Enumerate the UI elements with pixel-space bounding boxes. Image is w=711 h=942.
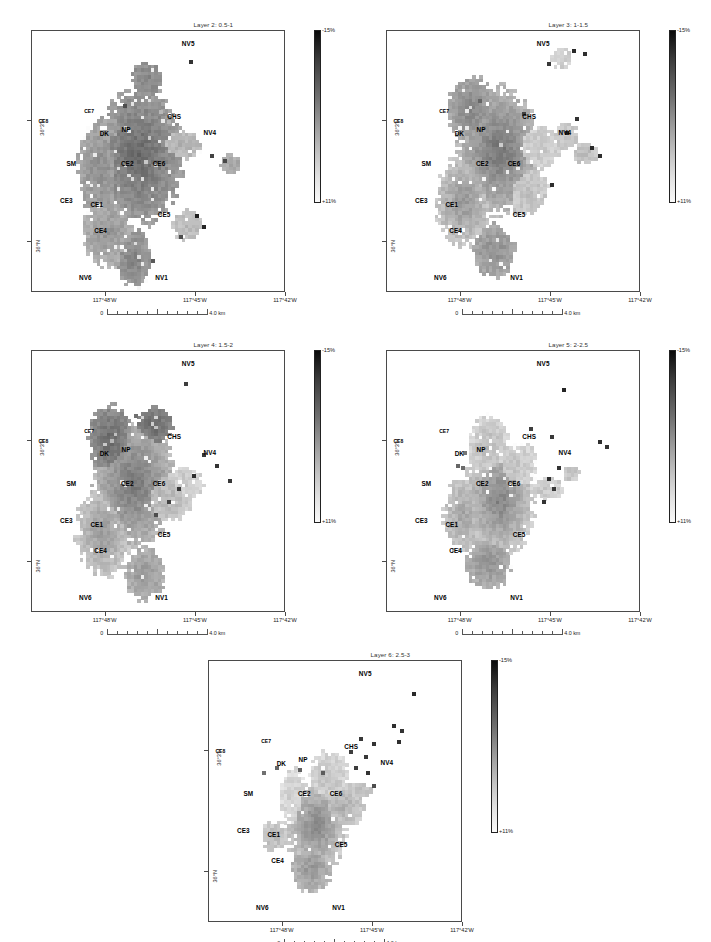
scale-bar-tick xyxy=(127,631,128,635)
panel-title: Layer 3: 1-1.5 xyxy=(549,21,589,28)
y-axis-tick-label: 36°N xyxy=(212,870,218,883)
site-label-nv4: NV4 xyxy=(558,128,571,135)
y-tickmark xyxy=(204,750,208,751)
site-label-ce3: CE3 xyxy=(60,516,73,523)
y-axis-tick-label: 36°3'N xyxy=(39,119,45,136)
site-label-nv6: NV6 xyxy=(79,274,92,281)
y-tickmark xyxy=(382,561,386,562)
scale-bar-tick xyxy=(542,311,543,315)
scale-bar-tick xyxy=(492,631,493,635)
site-label-nv5: NV5 xyxy=(537,39,550,46)
site-label-nv6: NV6 xyxy=(79,594,92,601)
scale-bar-tick xyxy=(532,631,533,635)
site-label-ce7: CE7 xyxy=(439,108,449,114)
site-label-ce5: CE5 xyxy=(513,211,526,218)
map-panel-layer5: Layer 5: 2-2.5NV5CHSCE7CE8DKNPNV4SMCE2CE… xyxy=(359,334,709,644)
site-label-ce2: CE2 xyxy=(121,160,134,167)
site-label-dk: DK xyxy=(455,130,464,137)
scale-bar-tick xyxy=(482,311,483,315)
x-axis-tick-label: 117°48'W xyxy=(448,617,472,623)
site-label-ce7: CE7 xyxy=(84,108,94,114)
site-label-nv5: NV5 xyxy=(182,39,195,46)
y-axis-tick-label: 36°N xyxy=(35,560,41,573)
site-label-sm: SM xyxy=(66,480,76,487)
y-tickmark xyxy=(382,120,386,121)
map-canvas[interactable]: NV5CHSCE7CE8DKNPNV4SMCE2CE6CE3CE1CE5CE4N… xyxy=(386,350,640,612)
site-label-ce3: CE3 xyxy=(60,196,73,203)
scale-bar-tick xyxy=(562,309,563,315)
scale-bar-end-label: 4.0 km xyxy=(564,630,580,636)
site-label-ce5: CE5 xyxy=(158,211,171,218)
scale-bar-tick xyxy=(117,631,118,635)
site-label-ce6: CE6 xyxy=(330,790,343,797)
scale-bar-tick xyxy=(512,629,513,635)
x-tickmark xyxy=(372,922,373,926)
colorbar-max-label: -15% xyxy=(499,657,512,663)
x-tickmark xyxy=(282,922,283,926)
scale-bar-tick xyxy=(502,631,503,635)
map-canvas[interactable]: NV5CHSCE7CE8DKNPNV4SMCE2CE6CE3CE1CE5CE4N… xyxy=(31,30,285,292)
scale-bar-tick xyxy=(207,309,208,315)
site-label-nv6: NV6 xyxy=(434,274,447,281)
x-axis-tick-label: 117°48'W xyxy=(93,617,117,623)
scale-bar-tick xyxy=(482,631,483,635)
scale-bar: 04.0 km xyxy=(462,309,562,317)
scale-bar-tick xyxy=(147,631,148,635)
site-label-np: NP xyxy=(298,756,307,763)
site-label-ce5: CE5 xyxy=(158,531,171,538)
site-label-dk: DK xyxy=(100,450,109,457)
scale-bar-tick xyxy=(117,311,118,315)
site-label-nv1: NV1 xyxy=(510,274,523,281)
site-label-ce2: CE2 xyxy=(121,480,134,487)
y-tickmark xyxy=(382,241,386,242)
x-tickmark xyxy=(285,612,286,616)
scale-bar-tick xyxy=(157,629,158,635)
site-label-nv1: NV1 xyxy=(332,904,345,911)
scale-bar-tick xyxy=(542,631,543,635)
scale-bar-tick xyxy=(552,631,553,635)
x-axis-tick-label: 117°45'W xyxy=(183,297,207,303)
x-tickmark xyxy=(460,612,461,616)
scale-bar-tick xyxy=(107,309,108,315)
site-label-sm: SM xyxy=(243,790,253,797)
x-axis-tick-label: 117°42'W xyxy=(273,617,297,623)
x-tickmark xyxy=(195,292,196,296)
scale-bar-tick xyxy=(177,311,178,315)
map-canvas[interactable]: NV5CHSCE7CE8DKNPNV4SMCE2CE6CE3CE1CE5CE4N… xyxy=(208,660,462,922)
x-axis-tick-label: 117°45'W xyxy=(538,297,562,303)
site-label-np: NP xyxy=(121,126,130,133)
site-label-ce4: CE4 xyxy=(94,227,107,234)
scale-bar-end-label: 4.0 km xyxy=(209,310,225,316)
y-axis-tick-label: 36°3'N xyxy=(39,439,45,456)
panel-title: Layer 2: 0.5-1 xyxy=(194,21,234,28)
site-label-ce1: CE1 xyxy=(445,200,458,207)
x-tickmark xyxy=(105,292,106,296)
map-canvas[interactable]: NV5CHSCE7CE8DKNPNV4SMCE2CE6CE3CE1CE5CE4N… xyxy=(31,350,285,612)
map-panel-layer6: Layer 6: 2.5-3NV5CHSCE7CE8DKNPNV4SMCE2CE… xyxy=(181,644,531,942)
scale-bar-tick xyxy=(552,311,553,315)
map-canvas[interactable]: NV5CHSCE7CE8DKNPNV4SMCE2CE6CE3CE1CE5CE4N… xyxy=(386,30,640,292)
scale-bar-tick xyxy=(147,311,148,315)
scale-bar-start-label: 0 xyxy=(455,630,458,636)
site-label-nv6: NV6 xyxy=(256,904,269,911)
x-tickmark xyxy=(550,292,551,296)
scale-bar-tick xyxy=(137,311,138,315)
map-panel-layer2: Layer 2: 0.5-1NV5CHSCE7CE8DKNPNV4SMCE2CE… xyxy=(4,14,354,324)
site-label-ce1: CE1 xyxy=(445,520,458,527)
x-axis-tick-label: 117°45'W xyxy=(183,617,207,623)
site-label-ce6: CE6 xyxy=(508,480,521,487)
site-label-ce5: CE5 xyxy=(335,841,348,848)
x-tickmark xyxy=(460,292,461,296)
site-label-ce1: CE1 xyxy=(90,520,103,527)
scale-bar-start-label: 0 xyxy=(455,310,458,316)
x-axis-tick-label: 117°42'W xyxy=(450,927,474,933)
site-label-ce4: CE4 xyxy=(449,227,462,234)
x-axis-tick-label: 117°45'W xyxy=(538,617,562,623)
site-label-ce3: CE3 xyxy=(237,826,250,833)
x-axis-tick-label: 117°48'W xyxy=(270,927,294,933)
scale-bar-tick xyxy=(137,631,138,635)
site-label-chs: CHS xyxy=(522,433,536,440)
x-tickmark xyxy=(285,292,286,296)
site-label-sm: SM xyxy=(421,160,431,167)
site-label-np: NP xyxy=(121,446,130,453)
